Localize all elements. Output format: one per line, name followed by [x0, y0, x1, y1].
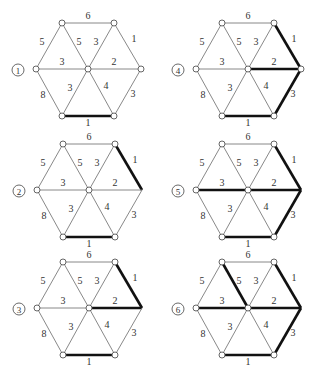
edge-bl-c [62, 69, 88, 116]
vertex-r [298, 66, 304, 72]
edge-weight-label: 5 [200, 157, 205, 168]
edge-weight-label: 6 [87, 249, 92, 260]
graph-panel-6: 6553132834316 [172, 249, 301, 367]
edge-tl-c [63, 262, 89, 308]
edge-weight-label: 5 [237, 275, 242, 286]
edge-weight-label: 2 [113, 177, 118, 188]
edge-weight-label: 1 [133, 272, 138, 283]
vertex-c [86, 187, 92, 193]
edge-weight-label: 1 [133, 154, 138, 165]
step-number-label: 2 [17, 187, 22, 197]
edge-tr-r-selected [274, 23, 301, 69]
edge-weight-label: 3 [291, 88, 296, 99]
edge-weight-label: 5 [78, 275, 83, 286]
vertex-tr [112, 141, 118, 147]
edge-bl-c [222, 190, 248, 237]
edge-weight-label: 2 [272, 295, 277, 306]
edge-weight-label: 5 [78, 157, 83, 168]
edge-weight-label: 3 [132, 327, 137, 338]
vertex-l [193, 187, 199, 193]
edge-weight-label: 2 [272, 177, 277, 188]
edge-weight-label: 3 [69, 203, 74, 214]
edge-weight-label: 3 [95, 275, 100, 286]
edge-weight-label: 4 [264, 319, 269, 330]
graph-panel-3: 6553132834313 [13, 249, 142, 367]
edge-weight-label: 1 [246, 117, 251, 128]
edge-tr-r-selected [115, 144, 142, 190]
edge-weight-label: 1 [87, 356, 92, 367]
edge-weight-label: 4 [264, 201, 269, 212]
edge-weight-label: 1 [246, 356, 251, 367]
vertex-c [85, 66, 91, 72]
step-number-label: 3 [17, 305, 22, 315]
edge-bl-c [63, 190, 89, 237]
edge-weight-label: 4 [105, 319, 110, 330]
edge-weight-label: 1 [292, 33, 297, 44]
vertex-bl [219, 352, 225, 358]
vertex-c [245, 187, 251, 193]
edge-bl-c [63, 308, 89, 355]
edge-r-br-selected [274, 190, 301, 237]
edge-weight-label: 1 [292, 154, 297, 165]
vertex-tr [112, 259, 118, 265]
edge-r-br [115, 308, 142, 355]
edge-r-br-selected [274, 69, 301, 116]
vertex-bl [59, 113, 65, 119]
vertex-br [112, 352, 118, 358]
vertex-tr [111, 20, 117, 26]
edge-weight-label: 3 [68, 82, 73, 93]
edge-weight-label: 3 [69, 321, 74, 332]
edge-weight-label: 5 [200, 36, 205, 47]
edge-tr-r [114, 23, 141, 69]
vertex-tl [219, 141, 225, 147]
vertex-bl [219, 113, 225, 119]
edge-weight-label: 1 [87, 238, 92, 249]
edge-weight-label: 4 [105, 201, 110, 212]
edge-weight-label: 3 [132, 209, 137, 220]
edge-weight-label: 1 [292, 272, 297, 283]
edge-weight-label: 3 [220, 295, 225, 306]
edge-weight-label: 3 [131, 88, 136, 99]
edge-weight-label: 5 [77, 36, 82, 47]
vertex-tl [219, 259, 225, 265]
edge-weight-label: 3 [60, 56, 65, 67]
edge-weight-label: 3 [228, 321, 233, 332]
edge-weight-label: 5 [41, 275, 46, 286]
edge-weight-label: 2 [112, 56, 117, 67]
vertex-l [34, 187, 40, 193]
edge-weight-label: 5 [41, 157, 46, 168]
edge-weight-label: 3 [254, 157, 259, 168]
vertex-br [271, 234, 277, 240]
edge-weight-label: 3 [254, 36, 259, 47]
vertex-c [86, 305, 92, 311]
edge-c-br [248, 308, 274, 355]
edge-weight-label: 4 [264, 80, 269, 91]
edge-tl-c [222, 23, 248, 69]
edge-r-br [114, 69, 141, 116]
edge-c-br [88, 69, 114, 116]
vertex-c [245, 66, 251, 72]
edge-tr-c [248, 144, 274, 190]
edge-weight-label: 8 [42, 210, 47, 221]
edge-tr-r-selected [274, 262, 301, 308]
edge-tl-c [62, 23, 88, 69]
edge-weight-label: 3 [94, 36, 99, 47]
edge-tr-c [89, 262, 115, 308]
edge-weight-label: 6 [246, 10, 251, 21]
graph-panel-2: 6553132834312 [13, 131, 142, 249]
edge-weight-label: 6 [246, 131, 251, 142]
edge-weight-label: 6 [246, 249, 251, 260]
step-number-label: 6 [176, 305, 181, 315]
vertex-l [193, 305, 199, 311]
edge-weight-label: 5 [237, 157, 242, 168]
edge-r-br [115, 190, 142, 237]
edge-weight-label: 1 [246, 238, 251, 249]
graph-panel-4: 6553132834314 [172, 10, 304, 128]
edge-bl-c [222, 308, 248, 355]
edge-weight-label: 2 [113, 295, 118, 306]
edge-weight-label: 5 [40, 36, 45, 47]
edge-weight-label: 8 [201, 89, 206, 100]
edge-weight-label: 3 [61, 177, 66, 188]
edge-c-br [89, 190, 115, 237]
edge-c-br [248, 69, 274, 116]
